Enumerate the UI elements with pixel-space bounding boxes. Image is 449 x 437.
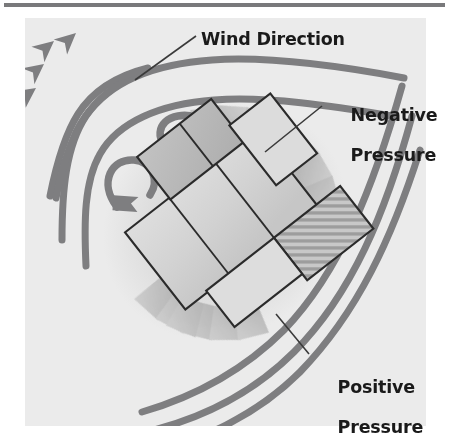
label-negative-pressure-line2: Pressure [351, 145, 437, 165]
label-negative-pressure-line1: Negative [351, 105, 438, 125]
label-positive-pressure-line2: Pressure [338, 417, 424, 437]
flow-arrowhead-2 [31, 33, 60, 62]
label-positive-pressure: Positive Pressure [314, 357, 423, 437]
label-wind-direction: Wind Direction [201, 29, 345, 49]
flow-arrowhead-group [14, 26, 83, 108]
figure-root: Wind Direction Negative Pressure Positiv… [0, 0, 449, 437]
flow-arrowhead-3 [22, 56, 50, 84]
label-positive-pressure-line1: Positive [338, 377, 415, 397]
leader-line-wind-direction [135, 36, 196, 80]
label-negative-pressure: Negative Pressure [327, 85, 437, 185]
flow-arrowhead-4 [14, 80, 42, 108]
flow-arrowhead-1 [54, 26, 83, 55]
